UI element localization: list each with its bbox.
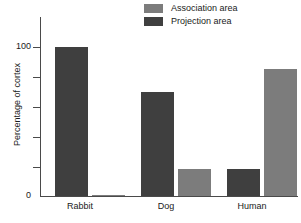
bar-dog-association [178, 169, 211, 196]
x-axis-line [40, 196, 298, 197]
legend-swatch-association-icon [144, 4, 163, 13]
bar-chart: Association area Projection area Percent… [0, 0, 301, 223]
y-tick-20 [33, 167, 40, 168]
y-tick-40 [33, 137, 40, 138]
bar-rabbit-association [92, 195, 125, 196]
y-tick-label-0: 0 [5, 191, 31, 200]
bar-human-projection [227, 169, 260, 196]
y-tick-80 [33, 77, 40, 78]
x-tick-label-dog: Dog [136, 201, 196, 211]
bar-rabbit-projection [55, 47, 88, 196]
bar-dog-projection [141, 92, 174, 196]
bar-human-association [264, 69, 297, 196]
y-tick-label-100: 100 [5, 42, 31, 51]
legend-item-association: Association area [144, 3, 238, 14]
y-axis-title: Percentage of cortex [13, 40, 22, 170]
y-tick-60 [33, 107, 40, 108]
x-tick-label-human: Human [222, 201, 282, 211]
legend-label-association: Association area [171, 4, 238, 13]
x-tick-label-rabbit: Rabbit [50, 201, 110, 211]
plot-area [41, 17, 298, 196]
y-tick-100 [33, 47, 40, 48]
